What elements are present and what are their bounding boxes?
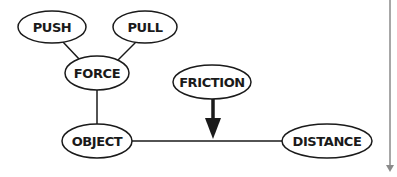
node-object-label: OBJECT — [72, 134, 123, 149]
node-pull-label: PULL — [127, 20, 162, 35]
arrow-down-icon — [386, 165, 394, 172]
node-pull: PULL — [113, 11, 177, 43]
node-friction-label: FRICTION — [179, 75, 245, 90]
node-push-label: PUSH — [33, 20, 72, 35]
friction-arrow — [205, 99, 221, 139]
edge-push-force — [63, 42, 80, 60]
node-distance-label: DISTANCE — [292, 134, 361, 149]
concept-map-diagram: PUSH PULL FORCE FRICTION OBJECT DISTANCE — [0, 0, 397, 177]
node-push: PUSH — [18, 11, 86, 43]
scroll-indicator[interactable] — [386, 0, 394, 172]
node-distance: DISTANCE — [282, 124, 372, 158]
node-force: FORCE — [65, 56, 129, 90]
edge-pull-force — [118, 42, 136, 60]
node-force-label: FORCE — [74, 66, 120, 81]
node-object: OBJECT — [62, 124, 132, 158]
node-friction: FRICTION — [173, 65, 251, 99]
